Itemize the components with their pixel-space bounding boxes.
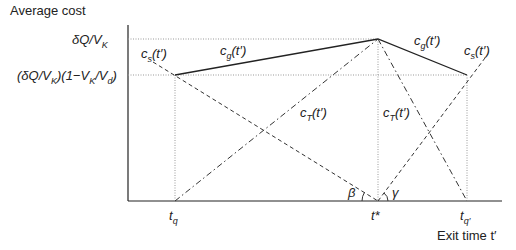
angle-beta: β: [347, 185, 356, 200]
ytick-lower-level: (δQ/VK)(1−VK/Vd): [17, 68, 117, 86]
label-cg-left: cg(t′): [220, 43, 246, 61]
average-cost-diagram: Average cost δQ/VK (δQ/VK)(1−VK/Vd) tq t…: [0, 0, 516, 250]
x-axis-label: Exit time t′: [437, 228, 497, 243]
label-cs-left: cs(t′): [141, 46, 167, 64]
cT-left-line: [175, 39, 378, 201]
xtick-tq-prime: tq′: [460, 208, 471, 226]
gamma-arc: [384, 193, 388, 201]
beta-arc: [362, 192, 365, 201]
label-cT-right: cT(t′): [383, 105, 410, 123]
label-cT-left: cT(t′): [300, 105, 327, 123]
label-cg-right: cg(t′): [414, 33, 440, 51]
ytick-dq-vk: δQ/VK: [72, 32, 109, 50]
xtick-tstar: t*: [371, 208, 381, 223]
y-axis-label: Average cost: [10, 3, 86, 18]
angle-gamma: γ: [392, 185, 400, 200]
xtick-tq: tq: [169, 208, 178, 226]
cs-right-line: [378, 58, 485, 201]
cs-left-line: [153, 62, 378, 201]
label-cs-right: cs(t′): [464, 43, 490, 61]
